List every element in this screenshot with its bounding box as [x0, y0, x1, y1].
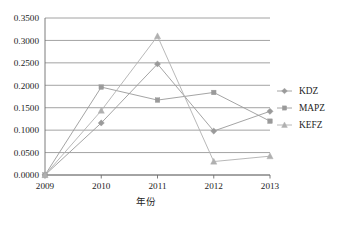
y-tick-label: 0.0500 [14, 148, 40, 158]
y-tick-label: 0.2000 [14, 81, 40, 91]
x-tick-label: 2009 [36, 181, 55, 191]
x-axis-title: 年份 [136, 196, 156, 207]
data-series-group [42, 33, 273, 178]
data-point-marker-square [155, 98, 160, 103]
legend-item-mapz[interactable]: MAPZ [277, 103, 325, 113]
chart-canvas: 0.00000.05000.10000.15000.20000.25000.30… [0, 0, 340, 233]
x-tick-label: 2011 [148, 181, 166, 191]
series-kdz [42, 61, 273, 178]
series-mapz [43, 85, 273, 178]
x-axis-tick-labels: 20092010201120122013 [36, 181, 280, 191]
data-point-marker-triangle [267, 153, 273, 159]
series-line-kdz [45, 64, 270, 175]
y-tick-label: 0.3500 [14, 13, 40, 23]
data-point-marker-triangle [154, 33, 160, 39]
x-tick-label: 2012 [205, 181, 224, 191]
gridlines-group [45, 18, 270, 175]
legend-label: MAPZ [299, 103, 325, 113]
y-tick-label: 0.1500 [14, 103, 40, 113]
line-chart: 0.00000.05000.10000.15000.20000.25000.30… [0, 0, 340, 233]
data-point-marker-square [99, 85, 104, 90]
legend-item-kdz[interactable]: KDZ [277, 86, 319, 96]
legend-item-kefz[interactable]: KEFZ [277, 120, 323, 130]
series-line-kefz [45, 36, 270, 175]
legend-label: KEFZ [299, 120, 323, 130]
data-point-marker-diamond [267, 108, 273, 114]
y-tick-label: 0.1000 [14, 125, 40, 135]
legend-label: KDZ [299, 86, 319, 96]
chart-legend: KDZMAPZKEFZ [277, 86, 325, 130]
x-tick-label: 2010 [92, 181, 111, 191]
data-point-marker-diamond [282, 88, 288, 94]
data-point-marker-square [211, 90, 216, 95]
x-axis-tick-marks [45, 175, 270, 179]
x-tick-label: 2013 [261, 181, 280, 191]
y-tick-label: 0.0000 [14, 170, 40, 180]
axis-lines [45, 18, 270, 175]
data-point-marker-square [282, 106, 286, 110]
data-point-marker-square [268, 119, 273, 124]
y-tick-label: 0.3000 [14, 36, 40, 46]
y-axis-tick-labels: 0.00000.05000.10000.15000.20000.25000.30… [14, 13, 40, 180]
y-tick-label: 0.2500 [14, 58, 40, 68]
